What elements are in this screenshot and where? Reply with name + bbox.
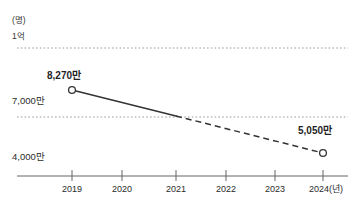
x-axis-label-2024: 2024(년) bbox=[309, 185, 343, 194]
x-axis-label-2021: 2021 bbox=[166, 185, 186, 194]
x-axis-label-2023: 2023 bbox=[265, 185, 285, 194]
population-projection-chart: (명) 1억 7,000만 4,000만 8,270만 5,050만 2019 … bbox=[0, 0, 362, 221]
data-point-marker-2024 bbox=[320, 150, 327, 157]
data-point-marker-2019 bbox=[69, 87, 76, 94]
y-axis-tick-label-mid: 7,000만 bbox=[12, 96, 45, 106]
y-axis-tick-label-bottom: 4,000만 bbox=[12, 152, 45, 162]
y-axis-unit-label: (명) bbox=[12, 16, 26, 25]
series-line-solid bbox=[72, 90, 176, 116]
x-axis-label-2019: 2019 bbox=[62, 185, 82, 194]
x-axis-label-2020: 2020 bbox=[112, 185, 132, 194]
y-axis-tick-label-top: 1억 bbox=[12, 32, 25, 41]
x-axis-label-2022: 2022 bbox=[216, 185, 236, 194]
data-label-2024: 5,050만 bbox=[298, 126, 332, 136]
data-label-2019: 8,270만 bbox=[47, 71, 81, 81]
